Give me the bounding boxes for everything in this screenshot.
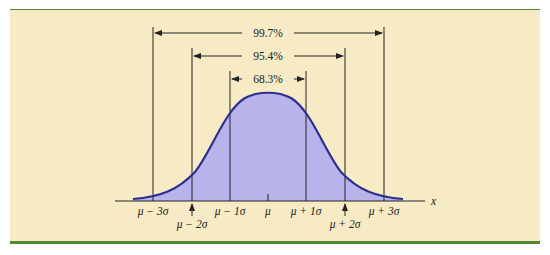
x-axis-label: x	[430, 195, 437, 207]
label-99-7-percent: 99.7%	[253, 27, 283, 39]
curve-area	[133, 93, 403, 201]
tick-label-mu-minus-1sigma: μ − 1σ	[214, 205, 247, 218]
label-95-4-percent: 95.4%	[253, 50, 283, 62]
tick-label-mu-plus-3sigma: μ + 3σ	[368, 205, 401, 218]
tick-label-mu-minus-2sigma: μ − 2σ	[176, 218, 209, 231]
tick-label-mu-plus-2sigma: μ + 2σ	[329, 218, 362, 231]
tick-label-mu-minus-3sigma: μ − 3σ	[137, 205, 170, 218]
tick-label-mu-plus-1sigma: μ + 1σ	[290, 205, 323, 218]
label-68-3-percent: 68.3%	[253, 73, 283, 85]
tick-label-mu: μ	[264, 205, 271, 218]
normal-distribution-diagram: x 99.7% 95.4% 68.3% μ − 3σ μ − 1σ μ μ + …	[0, 0, 550, 255]
